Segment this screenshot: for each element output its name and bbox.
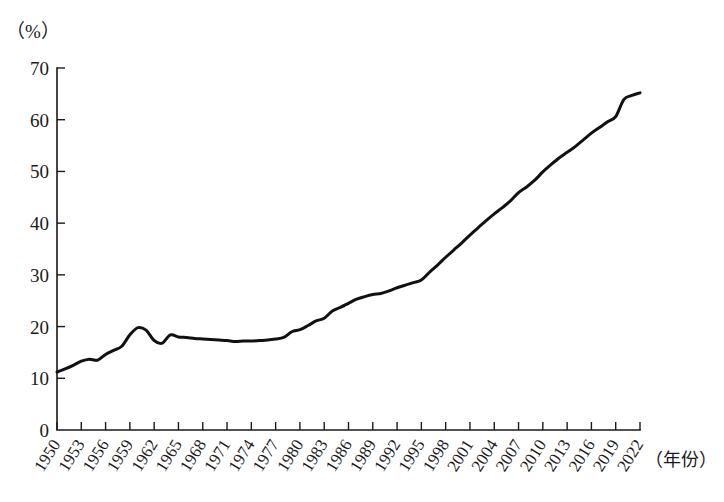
x-tick-label: 2022: [613, 436, 647, 475]
x-tick-labels: 1950195319561959196219651968197119741977…: [30, 436, 647, 475]
chart-container: （%） 010203040506070 19501953195619591962…: [0, 0, 724, 502]
y-tick-marks: [57, 68, 65, 378]
y-tick-label: 40: [30, 213, 49, 234]
y-tick-label: 70: [30, 58, 49, 79]
y-tick-label: 60: [30, 110, 49, 131]
data-series-line: [57, 93, 640, 372]
y-tick-label: 10: [30, 368, 49, 389]
axis-lines: [57, 68, 640, 430]
x-tick-marks: [57, 422, 640, 430]
x-axis-title: （年份）: [645, 450, 717, 470]
y-tick-label: 20: [30, 317, 49, 338]
line-chart: （%） 010203040506070 19501953195619591962…: [0, 0, 724, 502]
y-tick-label: 50: [30, 161, 49, 182]
y-axis-unit-label: （%）: [6, 21, 60, 42]
y-tick-labels: 010203040506070: [30, 58, 49, 441]
y-tick-label: 30: [30, 265, 49, 286]
